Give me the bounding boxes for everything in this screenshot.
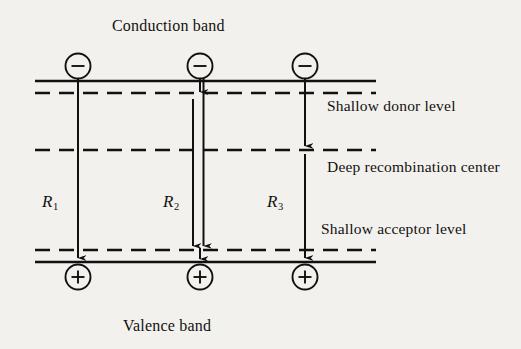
electron-icon bbox=[188, 54, 213, 79]
deep-recombination-center-label: Deep recombination center bbox=[327, 157, 507, 176]
band-diagram-figure: Conduction band Valence band Shallow don… bbox=[0, 0, 521, 349]
hole-icon bbox=[293, 265, 318, 290]
process-label-r3-base: R bbox=[267, 192, 278, 211]
electron-carriers bbox=[66, 54, 318, 79]
transition-r2 bbox=[193, 76, 204, 259]
process-label-r2-base: R bbox=[163, 192, 174, 211]
conduction-band-title: Conduction band bbox=[112, 16, 225, 35]
shallow-donor-level-label: Shallow donor level bbox=[327, 96, 456, 115]
shallow-acceptor-level-label: Shallow acceptor level bbox=[321, 219, 467, 238]
process-label-r1-base: R bbox=[42, 192, 53, 211]
process-label-r2: R2 bbox=[163, 192, 180, 216]
electron-icon bbox=[293, 54, 318, 79]
valence-band-title: Valence band bbox=[123, 316, 211, 335]
hole-carriers bbox=[66, 265, 318, 290]
hole-icon bbox=[66, 265, 91, 290]
process-label-r2-subscript: 2 bbox=[174, 201, 180, 212]
hole-icon bbox=[188, 265, 213, 290]
electron-icon bbox=[66, 54, 91, 79]
process-label-r1-subscript: 1 bbox=[53, 201, 59, 212]
process-label-r3-subscript: 3 bbox=[278, 201, 284, 212]
process-label-r3: R3 bbox=[267, 192, 284, 216]
process-label-r1: R1 bbox=[42, 192, 59, 216]
